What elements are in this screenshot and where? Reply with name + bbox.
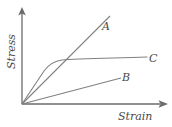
x-axis-label: Strain [118,111,152,122]
series-label-a: A [102,21,110,32]
x-axis [22,100,168,108]
y-axis-label: Stress [6,30,17,74]
y-axis [18,7,26,104]
series-label-c: C [149,53,157,64]
series-label-b: B [122,72,130,83]
stress-strain-plot [0,0,172,127]
stress-strain-figure: Stress Strain A B C [0,0,172,127]
